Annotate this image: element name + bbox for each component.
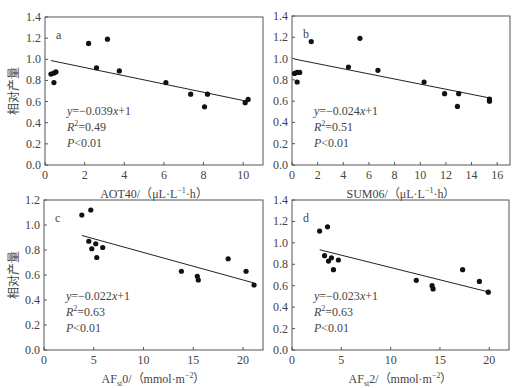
- data-point: [93, 241, 98, 246]
- regression-equation: y=−0.024x+1: [313, 104, 378, 118]
- data-point: [455, 104, 460, 109]
- y-tick-label: 1.2: [273, 214, 288, 228]
- x-tick-label: 10: [414, 168, 426, 182]
- data-point: [317, 228, 322, 233]
- p-value: P<0.01: [313, 136, 349, 150]
- y-tick-label: 0.0: [273, 343, 288, 357]
- data-point: [94, 65, 99, 70]
- x-tick-label: 8: [201, 168, 207, 182]
- x-tick-label: 0: [42, 168, 48, 182]
- data-point: [53, 69, 58, 74]
- data-point: [163, 80, 168, 85]
- x-axis-title: SUM06/（μL·L−1·h）: [347, 186, 456, 201]
- y-axis-title: 相对产量: [7, 67, 21, 115]
- x-tick-label: 14: [466, 168, 478, 182]
- data-points: [292, 36, 492, 109]
- x-tick-label: 8: [392, 168, 398, 182]
- data-points: [79, 207, 256, 287]
- y-tick-label: 1.4: [273, 193, 288, 207]
- panel-b: 02468101214160.00.20.40.60.81.01.21.4by=…: [273, 9, 510, 201]
- y-tick-label: 0.8: [273, 257, 288, 271]
- y-tick-label: 1.2: [273, 30, 288, 44]
- data-point: [79, 212, 84, 217]
- panel-label: a: [56, 28, 62, 42]
- y-tick-label: 0.6: [26, 95, 41, 109]
- panel-label: d: [303, 211, 309, 225]
- x-tick-label: 2: [82, 168, 88, 182]
- data-point: [117, 68, 122, 73]
- p-value: P<0.01: [65, 321, 101, 335]
- x-tick-label: 0: [289, 353, 295, 367]
- data-point: [243, 269, 248, 274]
- y-tick-label: 0.0: [26, 158, 41, 172]
- y-tick-label: 0.4: [273, 115, 288, 129]
- data-point: [477, 279, 482, 284]
- data-point: [456, 91, 461, 96]
- x-axis-title: AFst0/（mmol·m−2）: [102, 371, 206, 388]
- panel-label: c: [55, 211, 60, 225]
- panel-label: b: [303, 27, 309, 41]
- y-tick-label: 0.4: [26, 116, 41, 130]
- y-tick-label: 0.4: [273, 300, 288, 314]
- x-tick-label: 0: [41, 353, 47, 367]
- regression-equation: y=−0.022x+1: [65, 289, 130, 303]
- data-point: [105, 37, 110, 42]
- y-tick-label: 0.0: [25, 343, 40, 357]
- data-point: [325, 224, 330, 229]
- r-squared: R2=0.51: [313, 119, 353, 134]
- x-tick-label: 2: [315, 168, 321, 182]
- x-tick-label: 6: [366, 168, 372, 182]
- x-tick-label: 4: [121, 168, 127, 182]
- x-tick-label: 15: [187, 353, 199, 367]
- data-point: [226, 256, 231, 261]
- data-point: [179, 269, 184, 274]
- p-value: P<0.01: [66, 136, 102, 150]
- data-point: [487, 96, 492, 101]
- y-tick-label: 0.8: [25, 243, 40, 257]
- y-tick-label: 0.2: [273, 322, 288, 336]
- x-tick-label: 10: [138, 353, 150, 367]
- data-point: [297, 70, 302, 75]
- y-tick-label: 1.4: [26, 10, 41, 24]
- x-tick-label: 20: [237, 353, 249, 367]
- y-tick-label: 0.6: [273, 279, 288, 293]
- y-tick-label: 0.8: [273, 73, 288, 87]
- data-point: [86, 239, 91, 244]
- regression-equation: y=−0.039x+1: [66, 104, 131, 118]
- x-tick-label: 20: [483, 353, 495, 367]
- data-points: [48, 37, 250, 110]
- data-point: [196, 277, 201, 282]
- y-tick-label: 1.0: [25, 218, 40, 232]
- data-point: [295, 79, 300, 84]
- y-tick-label: 1.4: [273, 9, 288, 23]
- x-tick-label: 5: [91, 353, 97, 367]
- data-point: [88, 207, 93, 212]
- data-point: [430, 286, 435, 291]
- y-tick-label: 0.4: [25, 293, 40, 307]
- data-point: [329, 255, 334, 260]
- data-point: [246, 97, 251, 102]
- panel-c: 051015200.00.20.40.60.81.01.2cy=−0.022x+…: [7, 193, 263, 388]
- x-tick-label: 15: [434, 353, 446, 367]
- data-point: [346, 64, 351, 69]
- x-tick-label: 12: [440, 168, 452, 182]
- y-tick-label: 1.0: [26, 52, 41, 66]
- y-tick-label: 0.6: [25, 268, 40, 282]
- data-point: [460, 267, 465, 272]
- data-point: [336, 257, 341, 262]
- data-point: [331, 267, 336, 272]
- r-squared: R2=0.49: [66, 119, 106, 134]
- data-point: [202, 104, 207, 109]
- x-tick-label: 0: [289, 168, 295, 182]
- x-tick-label: 6: [161, 168, 167, 182]
- data-point: [357, 36, 362, 41]
- data-point: [414, 278, 419, 283]
- y-tick-label: 0.2: [273, 137, 288, 151]
- data-point: [309, 39, 314, 44]
- x-tick-label: 10: [237, 168, 249, 182]
- regression-equation: y=−0.023x+1: [313, 289, 378, 303]
- y-tick-label: 1.2: [25, 193, 40, 207]
- regression-line: [51, 61, 248, 102]
- data-point: [442, 91, 447, 96]
- x-axis-title: AOT40/（μL·L−1·h）: [100, 186, 208, 201]
